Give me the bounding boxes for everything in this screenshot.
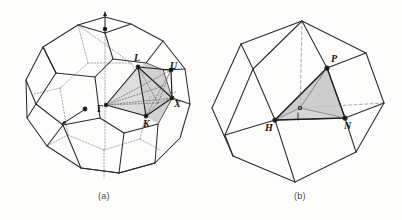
- label-a-L: L: [134, 53, 140, 63]
- panel-b-polyhedron: [212, 21, 384, 182]
- caption-panel-b: (b): [294, 191, 306, 201]
- label-a-Gamma: Γ: [97, 104, 103, 114]
- panel-b-irreducible-wedge: [273, 66, 347, 122]
- caption-panel-a: (a): [98, 191, 110, 201]
- panel-a-polyhedron: [26, 12, 190, 178]
- label-a-U: U: [170, 61, 177, 71]
- label-b-H: H: [265, 123, 273, 133]
- figure-canvas: [0, 0, 402, 220]
- label-b-P: P: [331, 54, 337, 64]
- label-a-K: K: [143, 119, 150, 129]
- label-a-X: X: [174, 99, 181, 109]
- label-b-N: N: [344, 121, 351, 131]
- gamma-center-dot: [298, 106, 301, 109]
- figure-root: L U X K Γ P N H (a) (b): [0, 0, 402, 220]
